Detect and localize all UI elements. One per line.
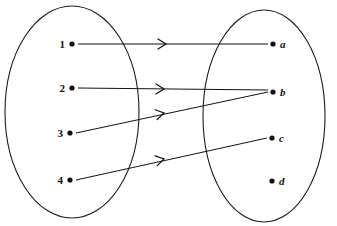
node-dot-4	[67, 177, 72, 182]
arrow-1-to-a	[78, 39, 268, 49]
node-dot-b	[270, 89, 275, 94]
mapping-arrows-group	[76, 39, 268, 180]
node-dot-a	[270, 41, 275, 46]
arrow-2-to-b-shaft	[78, 88, 268, 90]
node-label-a: a	[280, 38, 286, 50]
arrow-4-to-c	[76, 138, 267, 180]
mapping-diagram: 1234 abcd	[0, 0, 337, 226]
node-label-c: c	[279, 132, 284, 144]
domain-oval	[5, 6, 139, 218]
node-label-d: d	[279, 175, 285, 187]
node-label-1: 1	[60, 38, 66, 50]
arrow-2-to-b	[78, 84, 268, 94]
diagram-canvas: 1234 abcd	[0, 0, 337, 226]
domain-nodes-group: 1234	[58, 38, 75, 186]
codomain-oval	[203, 10, 325, 222]
node-label-b: b	[280, 86, 286, 98]
arrow-3-to-b	[76, 92, 268, 133]
arrow-3-to-b-shaft	[76, 92, 268, 133]
node-dot-3	[67, 130, 72, 135]
arrow-4-to-c-shaft	[76, 138, 267, 180]
arrow-3-to-b-arrowhead-icon	[155, 108, 165, 119]
node-dot-1	[69, 41, 74, 46]
node-label-4: 4	[58, 174, 64, 186]
node-label-2: 2	[60, 82, 66, 94]
node-dot-d	[269, 178, 274, 183]
codomain-nodes-group: abcd	[269, 38, 286, 187]
arrow-4-to-c-arrowhead-icon	[155, 154, 165, 165]
node-dot-2	[69, 85, 74, 90]
node-label-3: 3	[58, 127, 64, 139]
node-dot-c	[269, 135, 274, 140]
